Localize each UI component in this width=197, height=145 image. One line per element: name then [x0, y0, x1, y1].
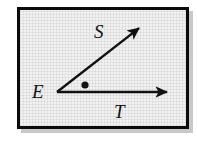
ray-label-t: T — [114, 102, 125, 121]
vertex-label-e: E — [32, 82, 44, 101]
figure-root: S E T — [0, 0, 197, 145]
interior-dot — [81, 81, 88, 88]
ray-label-s: S — [94, 22, 104, 41]
